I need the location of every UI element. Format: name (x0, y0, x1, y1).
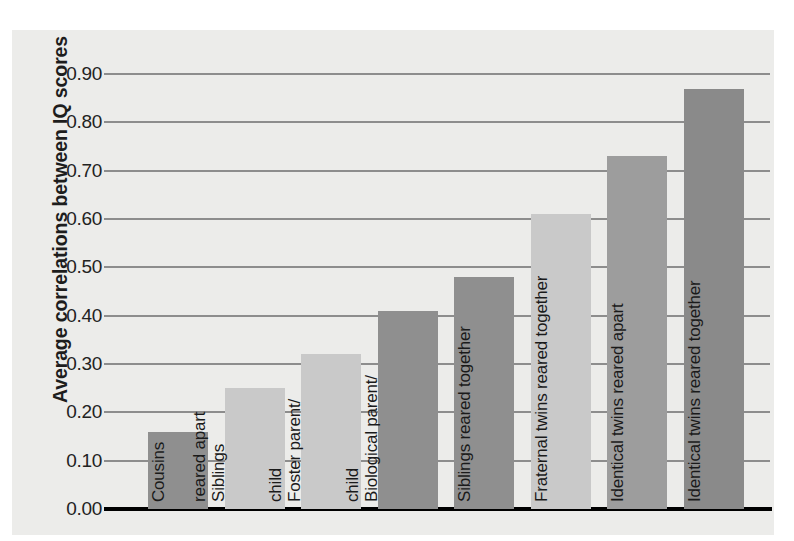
bar-label-line: child (266, 468, 285, 502)
bar-label: Siblings reared together (455, 326, 475, 502)
bar[interactable]: Identical twins reared together (684, 89, 744, 510)
bar-label: Biological parent/child (343, 375, 381, 502)
bar[interactable]: Identical twins reared apart (607, 156, 667, 509)
chart-figure: Average correlations between IQ scores 0… (0, 0, 794, 541)
bar-label: Identical twins reared apart (608, 303, 628, 502)
bar-label-line: child (343, 468, 362, 502)
bar-label: Cousins (149, 442, 169, 502)
bar[interactable]: Siblings reared together (454, 277, 514, 509)
bar-label-line: Siblings (209, 444, 228, 502)
bar-series: CousinsSiblingsreared apartFoster parent… (0, 0, 794, 541)
bar-label: Fraternal twins reared together (532, 276, 552, 502)
bar-label: Identical twins reared together (685, 280, 705, 502)
bar-label: Foster parent/child (266, 399, 304, 502)
bar-label: Siblingsreared apart (190, 412, 228, 502)
bar[interactable]: Fraternal twins reared together (531, 214, 591, 509)
bar-label-line: Foster parent/ (285, 399, 304, 502)
bar-label-line: reared apart (190, 412, 209, 502)
bar-label-line: Biological parent/ (362, 375, 381, 502)
bar[interactable]: Biological parent/child (378, 311, 438, 509)
